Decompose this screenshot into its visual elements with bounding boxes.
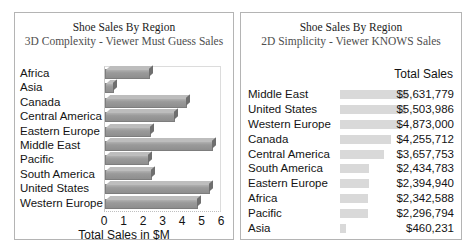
chart-3d-category-label: Middle East bbox=[20, 138, 104, 152]
chart-3d-category-axis: AfricaAsiaCanadaCentral AmericaEastern E… bbox=[20, 66, 104, 210]
sales-row-region-label: Middle East bbox=[248, 87, 308, 102]
chart-3d-category-label: Africa bbox=[20, 66, 104, 80]
chart-3d-category-label: Canada bbox=[20, 95, 104, 109]
chart-3d-bar bbox=[105, 98, 187, 108]
sales-table-row: Western Europe$4,873,000 bbox=[248, 117, 454, 132]
chart-3d-bar bbox=[105, 83, 114, 93]
sales-table-row: Pacific$2,296,794 bbox=[248, 206, 454, 221]
sales-row-bar bbox=[340, 179, 369, 188]
sales-row-region-label: Western Europe bbox=[248, 117, 331, 132]
sales-row-value: $460,231 bbox=[406, 221, 454, 236]
chart-3d-bar bbox=[105, 127, 151, 137]
chart-3d-category-label: South America bbox=[20, 167, 104, 181]
chart-3d-bar bbox=[105, 184, 210, 194]
sales-row-value: $5,503,986 bbox=[396, 102, 454, 117]
sales-row-bar bbox=[340, 194, 368, 203]
chart-3d-bar-row bbox=[105, 197, 220, 211]
sales-row-value: $2,394,940 bbox=[396, 176, 454, 191]
sales-row-bar-zone bbox=[340, 224, 408, 233]
sales-row-value: $4,873,000 bbox=[396, 117, 454, 132]
sales-row-bar bbox=[340, 224, 346, 233]
sales-row-value: $5,631,779 bbox=[396, 87, 454, 102]
chart-panel-3d: Shoe Sales By Region 3D Complexity - Vie… bbox=[14, 12, 234, 240]
sales-table-row: Middle East$5,631,779 bbox=[248, 87, 454, 102]
chart-3d-x-tick-label: 3 bbox=[159, 213, 166, 229]
sales-row-region-label: South America bbox=[248, 161, 323, 176]
chart-3d-bar-row bbox=[105, 153, 220, 167]
chart-3d-category-label: Asia bbox=[20, 80, 104, 94]
chart-panel-2d: Shoe Sales By Region 2D Simplicity - Vie… bbox=[240, 12, 462, 240]
chart-3d-category-label: Eastern Europe bbox=[20, 124, 104, 138]
chart-2d-title-block: Shoe Sales By Region 2D Simplicity - Vie… bbox=[241, 20, 461, 49]
chart-3d-bar bbox=[105, 170, 152, 180]
chart-3d-bar bbox=[105, 155, 149, 165]
chart-3d-bar bbox=[105, 69, 150, 79]
chart-3d-x-tick-label: 0 bbox=[101, 213, 108, 229]
sales-row-value: $2,434,783 bbox=[396, 161, 454, 176]
sales-row-value: $3,657,753 bbox=[396, 147, 454, 162]
sales-table-row: Canada$4,255,712 bbox=[248, 132, 454, 147]
sales-row-value: $2,296,794 bbox=[396, 206, 454, 221]
sales-row-value: $4,255,712 bbox=[396, 132, 454, 147]
chart-3d-bar bbox=[105, 199, 198, 209]
sales-row-bar bbox=[340, 135, 391, 144]
chart-3d-category-label: Western Europe bbox=[20, 196, 104, 210]
chart-3d-plot-area bbox=[104, 66, 221, 212]
chart-3d-bar bbox=[105, 141, 213, 151]
chart-3d-x-tick-label: 1 bbox=[120, 213, 127, 229]
sales-table-row: Asia$460,231 bbox=[248, 221, 454, 236]
chart-3d-x-tick-label: 6 bbox=[218, 213, 225, 229]
chart-3d-x-axis-title: Total Sales in $M bbox=[15, 228, 233, 242]
chart-3d-x-tick-label: 5 bbox=[198, 213, 205, 229]
sales-row-region-label: Africa bbox=[248, 191, 277, 206]
sales-row-bar bbox=[340, 150, 384, 159]
chart-3d-bar-row bbox=[105, 125, 220, 139]
chart-2d-subtitle: 2D Simplicity - Viewer KNOWS Sales bbox=[241, 34, 461, 49]
chart-3d-bar-row bbox=[105, 67, 220, 81]
chart-3d-category-label: Pacific bbox=[20, 152, 104, 166]
chart-3d-bar-row bbox=[105, 168, 220, 182]
sales-row-region-label: Pacific bbox=[248, 206, 282, 221]
sales-table-row: Eastern Europe$2,394,940 bbox=[248, 176, 454, 191]
chart-3d-bar-row bbox=[105, 110, 220, 124]
sales-table-row: South America$2,434,783 bbox=[248, 161, 454, 176]
chart-3d-bar-row bbox=[105, 96, 220, 110]
chart-3d-bar-row bbox=[105, 182, 220, 196]
chart-3d-x-tick-label: 2 bbox=[140, 213, 147, 229]
sales-table-row: Africa$2,342,588 bbox=[248, 191, 454, 206]
sales-row-region-label: Canada bbox=[248, 132, 288, 147]
sales-row-value: $2,342,588 bbox=[396, 191, 454, 206]
chart-3d-x-axis-ticks: 0123456 bbox=[104, 213, 221, 229]
chart-3d-subtitle: 3D Complexity - Viewer Must Guess Sales bbox=[15, 34, 233, 49]
chart-3d-title-block: Shoe Sales By Region 3D Complexity - Vie… bbox=[15, 20, 233, 49]
chart-3d-x-tick-label: 4 bbox=[179, 213, 186, 229]
sales-row-bar bbox=[340, 209, 368, 218]
total-sales-column-header: Total Sales bbox=[394, 67, 453, 81]
sales-row-bar bbox=[340, 120, 399, 129]
chart-3d-bar bbox=[105, 112, 175, 122]
sales-table-row: Central America$3,657,753 bbox=[248, 147, 454, 162]
sales-row-region-label: Eastern Europe bbox=[248, 176, 328, 191]
sales-row-bar bbox=[340, 164, 369, 173]
sales-table-row: United States$5,503,986 bbox=[248, 102, 454, 117]
sales-row-region-label: United States bbox=[248, 102, 317, 117]
chart-3d-category-label: Central America bbox=[20, 109, 104, 123]
sales-row-region-label: Central America bbox=[248, 147, 330, 162]
chart-2d-title: Shoe Sales By Region bbox=[241, 20, 461, 34]
sales-table-body: Middle East$5,631,779United States$5,503… bbox=[248, 87, 454, 237]
sales-row-region-label: Asia bbox=[248, 221, 270, 236]
chart-3d-title: Shoe Sales By Region bbox=[15, 20, 233, 34]
chart-3d-bar-row bbox=[105, 81, 220, 95]
chart-3d-category-label: United States bbox=[20, 181, 104, 195]
